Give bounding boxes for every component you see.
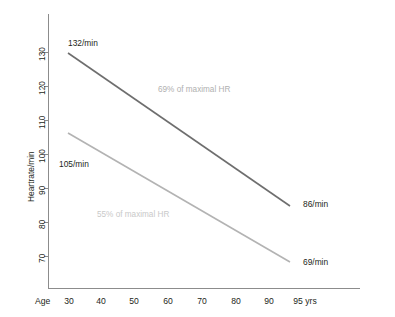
data-label-upper-end: 86/min (303, 200, 328, 208)
heart-rate-chart: Heartrate/min 130 120 110 100 90 80 70 A… (0, 0, 395, 317)
x-tick-label-60: 60 (160, 297, 176, 306)
x-tick-label-90: 90 (261, 297, 277, 306)
series-annotation-55-percent: 55% of maximal HR (97, 211, 169, 219)
data-label-upper-start: 132/min (68, 39, 98, 47)
x-tick-label-30: 30 (61, 297, 77, 306)
series-annotation-69-percent: 69% of maximal HR (158, 86, 230, 94)
x-tick-label-50: 50 (126, 297, 142, 306)
x-tick-label-70: 70 (194, 297, 210, 306)
y-tick-label-120: 120 (38, 81, 46, 95)
y-tick-label-110: 110 (38, 116, 46, 129)
x-tick-label-95-yrs: 95 yrs (288, 297, 322, 306)
y-tick-label-90: 90 (38, 186, 46, 195)
y-axis-title: Heartrate/min (27, 151, 35, 202)
y-tick-label-80: 80 (38, 220, 46, 229)
x-tick-label-80: 80 (228, 297, 244, 306)
x-axis-title: Age (35, 297, 50, 306)
y-tick-label-100: 100 (38, 149, 46, 163)
y-tick-label-130: 130 (38, 47, 46, 61)
data-label-lower-start: 105/min (59, 160, 89, 168)
data-label-lower-end: 69/min (303, 258, 328, 266)
x-tick-label-40: 40 (93, 297, 109, 306)
series-line-69-percent (68, 53, 290, 206)
series-line-55-percent (68, 133, 290, 262)
y-tick-label-70: 70 (38, 254, 46, 263)
